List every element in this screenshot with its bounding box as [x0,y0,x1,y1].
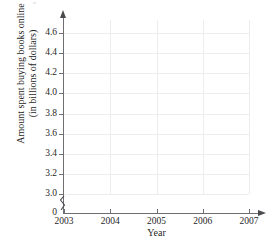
y-tick-mark [59,114,64,115]
y-tick-mark [59,134,64,135]
x-axis-title: Year [64,227,249,238]
x-tick-label: 2004 [90,216,130,226]
plot-area [64,20,249,214]
x-tick-mark [157,209,158,214]
y-axis-line [63,17,64,214]
y-axis-title-line-2: (in billions of dollars) [26,0,38,174]
y-tick-mark [59,174,64,175]
chart-container: 4.64.44.24.03.83.63.43.23.00 20032004200… [0,0,273,244]
y-axis-title: Amount spent buying books online (in bil… [15,0,38,174]
gridline-vertical [110,20,111,194]
x-tick-label: 2006 [183,216,223,226]
x-tick-label: 2003 [44,216,84,226]
x-axis-line [63,213,259,214]
y-tick-mark [59,93,64,94]
gridline-vertical [203,20,204,194]
y-tick-mark [59,53,64,54]
y-tick-mark [59,194,64,195]
y-tick-label: 3.0 [31,189,57,199]
gridline-vertical [157,20,158,194]
y-axis-break-icon [58,196,67,210]
y-axis-title-line-1: Amount spent buying books online [15,0,27,174]
x-tick-mark [64,209,65,214]
x-tick-mark [249,209,250,214]
gridline-vertical [249,20,250,194]
x-tick-mark [203,209,204,214]
y-tick-mark [59,73,64,74]
x-tick-mark [110,209,111,214]
y-tick-mark [59,154,64,155]
y-tick-mark [59,33,64,34]
gridline-horizontal [64,194,249,195]
x-tick-label: 2007 [229,216,269,226]
y-axis-arrow-icon [60,10,66,18]
x-tick-label: 2005 [137,216,177,226]
